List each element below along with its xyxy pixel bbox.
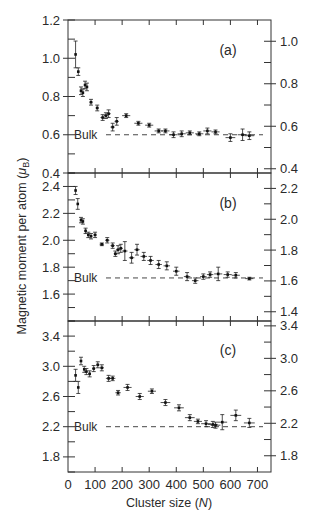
data-point <box>93 232 97 237</box>
chart-canvas: 0.40.60.81.01.20.40.60.81.0Bulk(a)1.61.8… <box>0 0 309 522</box>
data-point <box>186 131 194 135</box>
panel-frame <box>68 173 271 321</box>
right-tick-label: 0.4 <box>280 161 298 176</box>
data-point <box>84 228 88 233</box>
left-tick-label: 1.2 <box>42 13 60 28</box>
data-point <box>86 232 90 237</box>
panels-group: 0.40.60.81.01.20.40.60.81.0Bulk(a)1.61.8… <box>42 13 298 473</box>
right-tick-label: 1.4 <box>280 304 298 319</box>
x-tick-label: 400 <box>165 477 187 492</box>
left-tick-label: 1.8 <box>42 449 60 464</box>
data-point <box>105 238 109 243</box>
data-point <box>122 242 127 261</box>
left-tick-label: 2.6 <box>42 389 60 404</box>
right-tick-label: 3.0 <box>280 351 298 366</box>
data-point <box>161 129 169 133</box>
right-tick-label: 2.2 <box>280 181 298 196</box>
data-point <box>238 129 248 140</box>
x-tick-label: 300 <box>138 477 160 492</box>
magnetic-moment-chart: 0.40.60.81.01.20.40.60.81.0Bulk(a)1.61.8… <box>0 0 309 522</box>
bulk-label: Bulk <box>74 128 98 142</box>
data-point <box>76 68 80 76</box>
left-tick-label: 0.6 <box>42 127 60 142</box>
left-tick-label: 2.2 <box>42 419 60 434</box>
x-tick-label: 0 <box>64 477 71 492</box>
data-point <box>123 384 131 390</box>
data-point <box>89 234 93 239</box>
right-tick-label: 1.8 <box>280 243 298 258</box>
data-point <box>92 366 96 372</box>
left-tick-label: 1.6 <box>42 287 60 302</box>
x-tick-label: 700 <box>247 477 269 492</box>
bulk-label: Bulk <box>74 420 98 434</box>
data-point <box>96 362 100 368</box>
data-point <box>76 199 80 210</box>
data-point <box>74 186 78 194</box>
left-tick-label: 3.0 <box>42 359 60 374</box>
data-point <box>74 41 78 68</box>
panel-b: 1.61.82.02.22.41.41.61.82.02.2Bulk(b) <box>42 173 298 321</box>
panel-frame <box>68 321 271 472</box>
data-point <box>110 123 114 131</box>
x-tick-label: 500 <box>192 477 214 492</box>
y-axis-title: Magnetic moment per atom (μB) <box>15 158 31 335</box>
data-point <box>88 371 92 377</box>
data-point <box>173 267 179 275</box>
x-tick-label: 200 <box>111 477 133 492</box>
left-tick-label: 2.0 <box>42 233 60 248</box>
right-tick-label: 0.6 <box>280 119 298 134</box>
data-point <box>136 393 144 399</box>
data-point <box>147 256 153 264</box>
data-point <box>203 128 211 134</box>
data-point <box>224 272 232 277</box>
right-tick-label: 2.2 <box>280 416 298 431</box>
left-tick-label: 3.4 <box>42 329 60 344</box>
data-point <box>145 123 153 127</box>
panel-frame <box>68 20 271 173</box>
data-point <box>230 410 241 421</box>
data-point <box>217 415 227 430</box>
data-point <box>200 274 206 279</box>
right-tick-label: 1.8 <box>280 448 298 463</box>
data-point <box>185 415 195 421</box>
right-tick-label: 3.4 <box>280 318 298 333</box>
data-point <box>148 389 156 394</box>
data-point <box>100 365 104 371</box>
data-point <box>244 132 254 140</box>
data-point <box>170 132 178 138</box>
data-point <box>207 272 213 277</box>
data-point <box>134 121 142 125</box>
data-series <box>74 357 255 429</box>
data-point <box>115 118 119 126</box>
bulk-label: Bulk <box>74 271 98 285</box>
right-tick-label: 2.6 <box>280 383 298 398</box>
data-point <box>164 262 170 270</box>
data-point <box>201 421 211 427</box>
data-point <box>74 369 78 381</box>
data-point <box>194 419 202 424</box>
data-point <box>174 405 184 411</box>
right-tick-label: 1.0 <box>280 34 298 49</box>
panel-c: 1.82.22.63.03.41.82.22.63.03.4Bulk(c) <box>42 318 298 472</box>
left-tick-label: 2.2 <box>42 206 60 221</box>
data-point <box>178 131 186 137</box>
panel-label: (a) <box>219 42 236 58</box>
data-point <box>79 357 83 365</box>
data-point <box>134 244 139 255</box>
data-point <box>122 114 130 118</box>
left-tick-label: 1.8 <box>42 260 60 275</box>
right-tick-label: 1.6 <box>280 273 298 288</box>
panel-label: (b) <box>219 195 236 211</box>
right-tick-label: 0.8 <box>280 76 298 91</box>
left-tick-label: 1.0 <box>42 51 60 66</box>
data-point <box>115 390 120 395</box>
data-point <box>100 243 104 246</box>
data-point <box>155 260 161 268</box>
panel-a: 0.40.60.81.01.20.40.60.81.0Bulk(a) <box>42 13 298 181</box>
x-axis: 0100200300400500600700 <box>64 477 268 492</box>
data-point <box>95 105 99 111</box>
data-point <box>129 252 134 263</box>
x-axis-title: Cluster size (N) <box>126 496 212 510</box>
data-point <box>141 252 147 260</box>
x-tick-label: 100 <box>84 477 106 492</box>
